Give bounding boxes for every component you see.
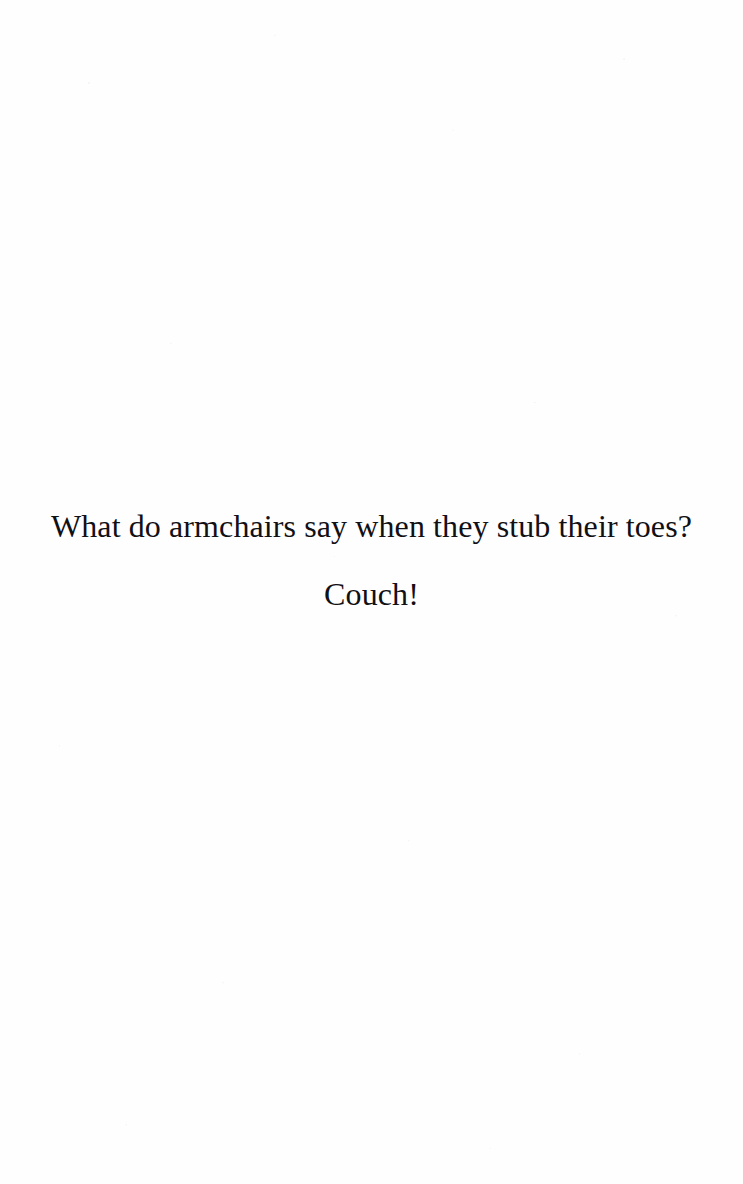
scanned-page: What do armchairs say when they stub the… bbox=[0, 0, 743, 1184]
joke-punchline-line: Couch! bbox=[0, 573, 743, 616]
joke-question-line: What do armchairs say when they stub the… bbox=[0, 505, 743, 548]
joke-text-block: What do armchairs say when they stub the… bbox=[0, 505, 743, 616]
